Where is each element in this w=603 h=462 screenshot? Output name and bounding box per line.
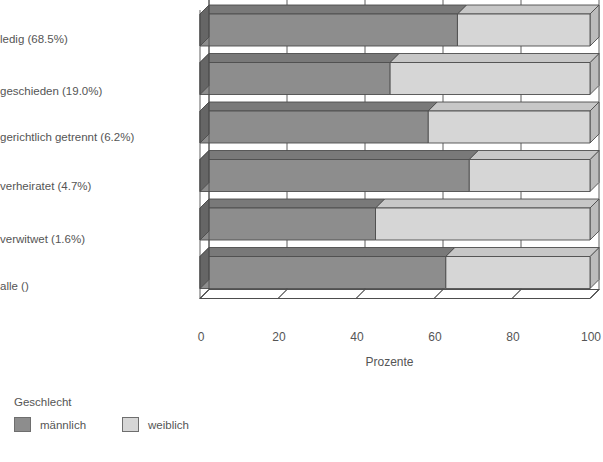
floor-top [200, 290, 599, 299]
bar-segment-front [376, 208, 591, 240]
bar-group [200, 5, 599, 46]
legend-item-weiblich: weiblich [122, 417, 189, 432]
bar-segment-front [200, 208, 376, 240]
xtick-80: 80 [493, 330, 533, 344]
legend-swatch-icon [14, 417, 31, 432]
bar-segment-top [376, 199, 600, 208]
bar-segment-top [200, 54, 399, 63]
legend-items: männlich weiblich [14, 417, 189, 432]
bar-segment-front [200, 111, 428, 143]
chart-floor [200, 290, 599, 299]
bar-segment-front [428, 111, 590, 143]
xtick-60: 60 [415, 330, 455, 344]
bar-segment-front [469, 160, 590, 192]
bar-segment-top [457, 5, 599, 14]
bar-segment-top [200, 248, 455, 257]
xtick-0: 0 [181, 330, 221, 344]
xtick-40: 40 [337, 330, 377, 344]
bar-group [200, 248, 599, 289]
bar-segment-top [469, 151, 599, 160]
bar-segment-front [200, 63, 390, 95]
bar-segment-top [428, 102, 599, 111]
bar-segment-top [200, 5, 466, 14]
legend-item-maennlich: männlich [14, 417, 86, 432]
legend-item-label: weiblich [148, 419, 189, 431]
legend-item-label: männlich [40, 419, 86, 431]
bar-segment-front [200, 257, 446, 289]
x-axis-title-text: Prozente [365, 355, 413, 369]
bar-segment-top [200, 151, 478, 160]
bar-segment-top [200, 102, 437, 111]
bar-segment-front [390, 63, 590, 95]
bar-group [200, 54, 599, 95]
bar-group [200, 199, 599, 240]
bar-segment-front [457, 14, 590, 46]
bar-group [200, 102, 599, 143]
bar-segment-top [390, 54, 599, 63]
xtick-100: 100 [571, 330, 603, 344]
legend: Geschlecht männlich weiblich [14, 396, 189, 432]
x-axis-title: Prozente [0, 355, 603, 369]
bar-segment-front [200, 14, 457, 46]
xtick-20: 20 [259, 330, 299, 344]
bar-segment-top [446, 248, 599, 257]
bar-segment-front [446, 257, 590, 289]
legend-swatch-icon [122, 417, 139, 432]
legend-title: Geschlecht [14, 396, 189, 408]
bar-group [200, 151, 599, 192]
bar-segment-top [200, 199, 385, 208]
stacked-bar-chart: ledig (68.5%) geschieden (19.0%) gericht… [0, 0, 603, 462]
plot-area [0, 0, 603, 340]
bar-segment-front [200, 160, 469, 192]
